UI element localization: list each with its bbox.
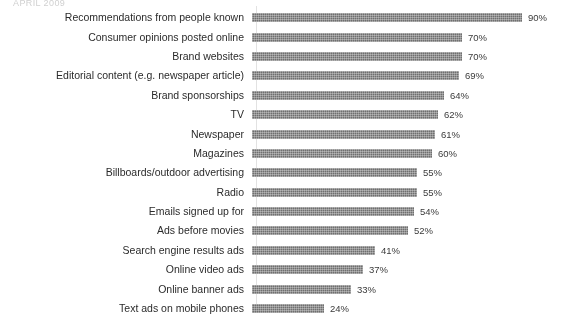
bar-row: Emails signed up for54%	[0, 202, 569, 221]
bar-track: 37%	[252, 260, 569, 279]
bar-row: Ads before movies52%	[0, 221, 569, 240]
bar-row: Consumer opinions posted online70%	[0, 27, 569, 46]
bar-value-label: 54%	[420, 206, 439, 217]
bar-category-label: Online video ads	[0, 264, 252, 275]
bar	[252, 110, 438, 119]
bar-row: Brand sponsorships64%	[0, 86, 569, 105]
bar	[252, 265, 363, 274]
bar-track: 41%	[252, 241, 569, 260]
bar-track: 70%	[252, 47, 569, 66]
bar-value-label: 37%	[369, 264, 388, 275]
bar	[252, 33, 462, 42]
bar	[252, 304, 324, 313]
bar-category-label: Emails signed up for	[0, 206, 252, 217]
bar-category-label: Consumer opinions posted online	[0, 32, 252, 43]
bar-track: 33%	[252, 279, 569, 298]
bar-value-label: 60%	[438, 148, 457, 159]
bar-chart: APRIL 2009 Recommendations from people k…	[0, 0, 569, 317]
bar-rows-container: Recommendations from people known90%Cons…	[0, 8, 569, 317]
bar-value-label: 52%	[414, 225, 433, 236]
bar	[252, 149, 432, 158]
bar-value-label: 61%	[441, 129, 460, 140]
bar-track: 52%	[252, 221, 569, 240]
bar-value-label: 55%	[423, 167, 442, 178]
bar-track: 24%	[252, 299, 569, 317]
bar	[252, 130, 435, 139]
bar-row: Search engine results ads41%	[0, 241, 569, 260]
bar-category-label: TV	[0, 109, 252, 120]
bar-category-label: Radio	[0, 187, 252, 198]
bar	[252, 207, 414, 216]
bar-category-label: Newspaper	[0, 129, 252, 140]
bar-category-label: Brand sponsorships	[0, 90, 252, 101]
bar-row: Newspaper61%	[0, 124, 569, 143]
bar	[252, 188, 417, 197]
bar-category-label: Magazines	[0, 148, 252, 159]
bar-track: 55%	[252, 183, 569, 202]
bar-track: 55%	[252, 163, 569, 182]
bar-row: TV62%	[0, 105, 569, 124]
bar-track: 62%	[252, 105, 569, 124]
bar	[252, 285, 351, 294]
bar-value-label: 55%	[423, 187, 442, 198]
bar-row: Text ads on mobile phones24%	[0, 299, 569, 317]
bar-value-label: 33%	[357, 284, 376, 295]
bar	[252, 52, 462, 61]
bar-row: Recommendations from people known90%	[0, 8, 569, 27]
bar	[252, 246, 375, 255]
bar-track: 90%	[252, 8, 569, 27]
bar-row: Editorial content (e.g. newspaper articl…	[0, 66, 569, 85]
bar-category-label: Ads before movies	[0, 225, 252, 236]
bar-value-label: 69%	[465, 70, 484, 81]
bar-value-label: 70%	[468, 51, 487, 62]
bar-row: Radio55%	[0, 183, 569, 202]
bar-row: Brand websites70%	[0, 47, 569, 66]
bar-row: Magazines60%	[0, 144, 569, 163]
bar-value-label: 64%	[450, 90, 469, 101]
bar-value-label: 70%	[468, 32, 487, 43]
bar-track: 54%	[252, 202, 569, 221]
bar	[252, 13, 522, 22]
bar-track: 64%	[252, 86, 569, 105]
bar-value-label: 62%	[444, 109, 463, 120]
chart-header-text: APRIL 2009	[13, 0, 65, 8]
bar-value-label: 24%	[330, 303, 349, 314]
bar-row: Billboards/outdoor advertising55%	[0, 163, 569, 182]
bar-category-label: Editorial content (e.g. newspaper articl…	[0, 70, 252, 81]
bar-category-label: Recommendations from people known	[0, 12, 252, 23]
bar	[252, 91, 444, 100]
bar-track: 61%	[252, 124, 569, 143]
bar-category-label: Online banner ads	[0, 284, 252, 295]
bar-value-label: 90%	[528, 12, 547, 23]
bar	[252, 226, 408, 235]
bar-category-label: Billboards/outdoor advertising	[0, 167, 252, 178]
bar-track: 70%	[252, 27, 569, 46]
bar	[252, 168, 417, 177]
bar	[252, 71, 459, 80]
bar-track: 69%	[252, 66, 569, 85]
bar-category-label: Brand websites	[0, 51, 252, 62]
bar-category-label: Text ads on mobile phones	[0, 303, 252, 314]
bar-value-label: 41%	[381, 245, 400, 256]
bar-row: Online banner ads33%	[0, 279, 569, 298]
bar-track: 60%	[252, 144, 569, 163]
bar-row: Online video ads37%	[0, 260, 569, 279]
bar-category-label: Search engine results ads	[0, 245, 252, 256]
